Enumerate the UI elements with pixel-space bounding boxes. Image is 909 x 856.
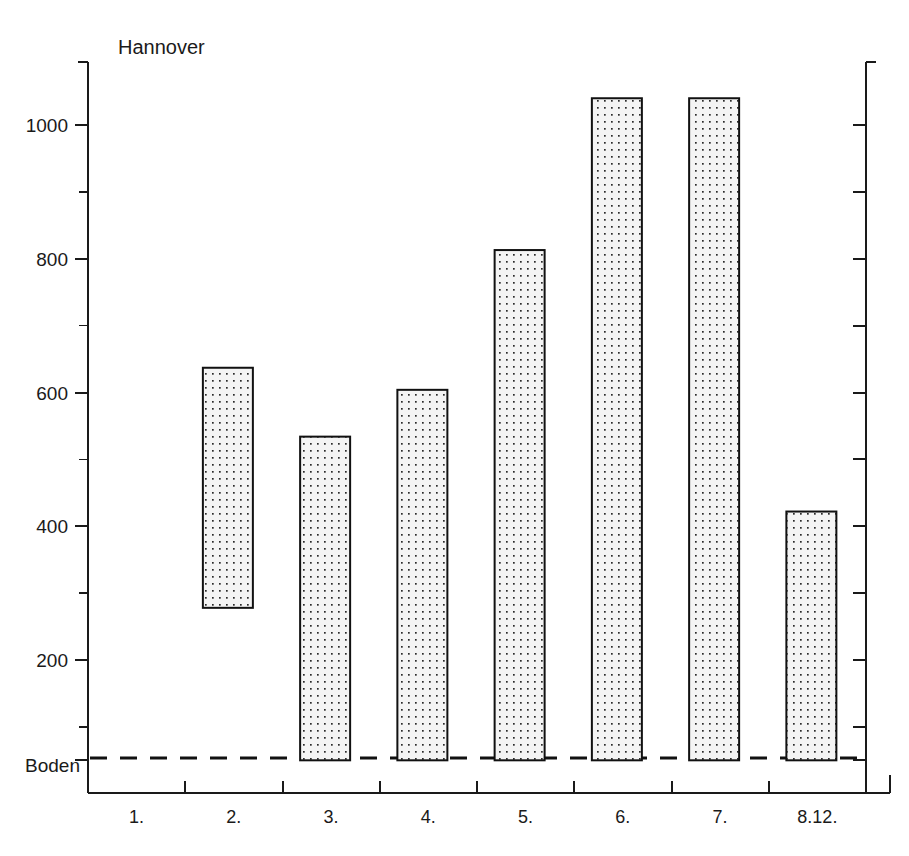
left-axis-tick-label: 800	[36, 249, 68, 270]
bar	[397, 390, 447, 760]
category-axis-label: 8.12.	[797, 807, 837, 827]
bar	[689, 98, 739, 760]
bar	[495, 250, 545, 760]
bar	[786, 512, 836, 761]
left-axis-tick-label: 200	[36, 650, 68, 671]
bar	[300, 437, 350, 761]
category-axis-label: 1.	[129, 807, 144, 827]
category-axis-label: 7.	[713, 807, 728, 827]
category-axis-label: 4.	[421, 807, 436, 827]
bar	[592, 98, 642, 760]
left-axis-tick-label: 400	[36, 516, 68, 537]
bar	[203, 368, 253, 608]
category-axis-label: 3.	[324, 807, 339, 827]
bar-chart: Hannover 2004006008001000 Boden 1.2.3.4.…	[0, 0, 909, 856]
category-axis-label: 5.	[518, 807, 533, 827]
chart-container: Hannover 2004006008001000 Boden 1.2.3.4.…	[0, 0, 909, 856]
left-axis-tick-label: 600	[36, 383, 68, 404]
left-axis-tick-label: 1000	[26, 115, 68, 136]
category-axis-label: 2.	[226, 807, 241, 827]
chart-title: Hannover	[118, 36, 205, 58]
baseline-label: Boden	[25, 755, 80, 776]
category-axis-label: 6.	[615, 807, 630, 827]
chart-background	[0, 0, 909, 856]
